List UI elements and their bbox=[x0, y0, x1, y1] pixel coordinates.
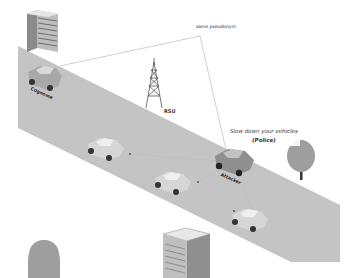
scene-drawing bbox=[0, 0, 358, 278]
vehicular-scene: same pseudonym RSU Cognome Attacker Slow… bbox=[0, 0, 358, 278]
tree-bottom-left-icon bbox=[28, 240, 60, 278]
message-line-2: (Police) bbox=[252, 137, 276, 143]
pseudonym-text: same pseudonym bbox=[196, 24, 236, 30]
tree-right-icon bbox=[287, 140, 315, 180]
warning-message: Slow down your vehicles (Police) bbox=[228, 126, 300, 146]
rsu-tower-icon bbox=[146, 58, 162, 108]
building-bottom-icon bbox=[163, 228, 210, 278]
message-line-1: Slow down your vehicles bbox=[230, 127, 298, 136]
pseudonym-label: same pseudonym bbox=[196, 24, 236, 30]
rsu-label: RSU bbox=[164, 108, 176, 114]
building-top-left bbox=[27, 10, 58, 52]
